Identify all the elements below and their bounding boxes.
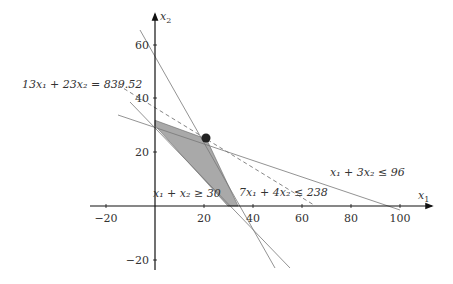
y-tick-label: 60 bbox=[135, 39, 149, 52]
x-tick-label: 60 bbox=[295, 212, 309, 225]
objective-label: 13x₁ + 23x₂ = 839.52 bbox=[22, 78, 142, 91]
constraint-label-x1-plus-3x2: x₁ + 3x₂ ≤ 96 bbox=[330, 166, 405, 179]
y-tick-label: −20 bbox=[126, 254, 149, 267]
y-tick-label: 40 bbox=[135, 92, 149, 105]
constraint-line-7x1-plus-4x2 bbox=[140, 30, 275, 268]
x-axis-label: x1 bbox=[418, 189, 429, 204]
x-tick-label: 100 bbox=[390, 212, 411, 225]
x-tick-label: 80 bbox=[344, 212, 358, 225]
linear-program-chart: −20 20 40 60 80 100 −20 20 40 60 x1 x2 1… bbox=[0, 0, 453, 284]
optimum-point bbox=[202, 134, 211, 143]
y-axis-label: x2 bbox=[160, 10, 171, 25]
x-tick-label: 20 bbox=[197, 212, 211, 225]
y-tick-label: 20 bbox=[135, 146, 149, 159]
constraint-label-x1-plus-x2: x₁ + x₂ ≥ 30 bbox=[153, 187, 221, 200]
x-tick-label: 40 bbox=[246, 212, 260, 225]
x-tick-label: −20 bbox=[94, 212, 117, 225]
constraint-label-7x1-plus-4x2: 7x₁ + 4x₂ ≤ 238 bbox=[239, 186, 328, 199]
